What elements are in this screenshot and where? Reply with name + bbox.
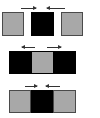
arrow-right — [21, 8, 36, 9]
arrow-right — [47, 47, 61, 48]
arrow-left — [47, 8, 65, 9]
arrow-left — [22, 47, 35, 48]
black-segment — [31, 90, 53, 113]
black-segment — [9, 51, 32, 74]
arrow-head-icon — [34, 84, 38, 88]
black-segment — [53, 51, 76, 74]
gray-segment — [53, 90, 76, 113]
arrow-head-icon — [45, 84, 49, 88]
black-square — [31, 12, 54, 36]
gray-square — [61, 12, 83, 36]
arrow-left — [46, 86, 60, 87]
arrow-head-icon — [58, 45, 62, 49]
arrow-head-icon — [46, 6, 50, 10]
arrow-head-icon — [21, 45, 25, 49]
gray-segment — [32, 51, 53, 74]
arrow-head-icon — [33, 6, 37, 10]
gray-square — [2, 12, 24, 36]
arrow-right — [25, 86, 37, 87]
gray-segment — [9, 90, 31, 113]
